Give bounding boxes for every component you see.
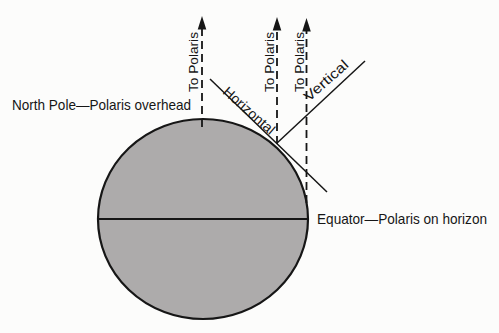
equator-callout: Equator—Polaris on horizon [317,210,487,227]
to-polaris-label-1: To Polaris [186,32,201,92]
diagram-canvas: To Polaris To Polaris To Polaris Horizon… [0,0,499,333]
arrowhead-icon [302,18,311,32]
to-polaris-label-2: To Polaris [262,32,277,92]
arrowhead-icon [273,17,282,31]
polaris-latitude-diagram: To Polaris To Polaris To Polaris Horizon… [0,0,499,333]
to-polaris-label-3: To Polaris [292,32,307,92]
north-pole-callout: North Pole—Polaris overhead [12,96,191,113]
arrowhead-icon [198,16,207,30]
